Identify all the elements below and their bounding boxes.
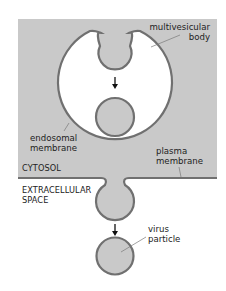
label-line: CYTOSOL [22,163,61,173]
label-plasma-membrane: plasma membrane [156,146,203,166]
label-endosomal-membrane: endosomal membrane [30,133,77,153]
label-line: plasma [156,146,203,156]
label-line: endosomal [30,133,77,143]
label-line: EXTRACELLULAR [22,185,91,195]
label-line: virus [148,224,180,234]
label-multivesicular-body: multivesicular body [148,22,210,42]
label-line: body [148,32,210,42]
label-cytosol: CYTOSOL [22,163,61,173]
virus-particle [97,238,134,275]
label-virus-particle: virus particle [148,224,180,244]
label-line: membrane [156,156,203,166]
intraluminal-vesicle [96,98,134,136]
label-line: SPACE [22,195,91,205]
label-line: multivesicular [148,22,210,32]
label-line: membrane [30,143,77,153]
label-line: particle [148,234,180,244]
label-extracellular-space: EXTRACELLULAR SPACE [22,185,91,205]
arrow-virus-release-head [112,231,118,236]
